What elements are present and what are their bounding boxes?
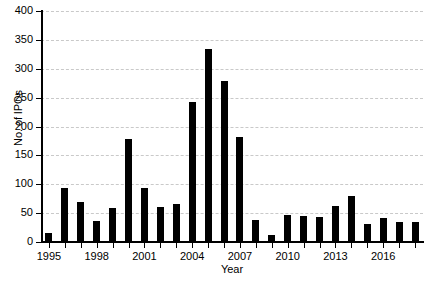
y-axis-tick xyxy=(36,40,41,41)
y-axis-tick xyxy=(36,11,41,12)
bar xyxy=(61,188,68,242)
y-axis-tick xyxy=(36,69,41,70)
y-axis-tick-label: 200 xyxy=(0,121,33,132)
y-axis-tick-label: 300 xyxy=(0,63,33,74)
bar xyxy=(412,222,419,242)
bar xyxy=(364,224,371,242)
bar xyxy=(284,215,291,242)
y-axis-tick xyxy=(36,184,41,185)
bar xyxy=(93,221,100,242)
y-axis-tick-label: 0 xyxy=(0,236,33,247)
bar xyxy=(380,218,387,242)
x-axis-tick xyxy=(113,243,114,248)
x-axis-tick xyxy=(65,243,66,248)
ipo-bar-chart: No. of IPOs Year 05010015020025030035040… xyxy=(0,0,435,281)
x-axis-tick xyxy=(272,243,273,248)
x-axis-tick xyxy=(176,243,177,248)
x-axis-tick xyxy=(288,243,289,248)
y-axis-tick xyxy=(36,127,41,128)
x-axis-tick xyxy=(81,243,82,248)
bar xyxy=(173,204,180,242)
y-axis-tick-label: 350 xyxy=(0,34,33,45)
y-axis-tick xyxy=(36,242,41,243)
x-axis-tick xyxy=(256,243,257,248)
bar xyxy=(109,208,116,242)
bar xyxy=(221,81,228,242)
x-axis-tick xyxy=(367,243,368,248)
x-axis-tick xyxy=(129,243,130,248)
x-axis-tick-label: 1998 xyxy=(77,250,117,262)
bar xyxy=(300,216,307,242)
bar xyxy=(157,207,164,242)
x-axis-tick xyxy=(160,243,161,248)
x-axis-tick xyxy=(144,243,145,248)
bar xyxy=(252,220,259,242)
y-axis-tick-label: 150 xyxy=(0,149,33,160)
x-axis-tick xyxy=(399,243,400,248)
x-axis-tick-label: 1995 xyxy=(29,250,69,262)
bar xyxy=(316,217,323,242)
x-axis-tick xyxy=(208,243,209,248)
x-axis-tick-label: 2007 xyxy=(220,250,260,262)
y-axis-tick-label: 250 xyxy=(0,92,33,103)
bars-container xyxy=(41,11,423,242)
x-axis-tick-label: 2010 xyxy=(268,250,308,262)
y-axis-tick xyxy=(36,213,41,214)
bar xyxy=(189,102,196,242)
y-axis-tick xyxy=(36,98,41,99)
x-axis-tick xyxy=(224,243,225,248)
x-axis-tick-label: 2001 xyxy=(124,250,164,262)
y-axis-tick-label: 400 xyxy=(0,5,33,16)
bar xyxy=(205,49,212,242)
x-axis-title: Year xyxy=(41,263,423,275)
x-axis-tick xyxy=(97,243,98,248)
x-axis-tick xyxy=(383,243,384,248)
y-axis-tick xyxy=(36,155,41,156)
x-axis-tick xyxy=(320,243,321,248)
x-axis-tick-label: 2016 xyxy=(363,250,403,262)
bar xyxy=(77,202,84,242)
bar xyxy=(396,222,403,242)
bar xyxy=(125,139,132,242)
y-axis-tick-label: 50 xyxy=(0,207,33,218)
x-axis-tick xyxy=(415,243,416,248)
x-axis-tick xyxy=(240,243,241,248)
x-axis-tick xyxy=(304,243,305,248)
bar xyxy=(332,206,339,242)
x-axis-tick-label: 2004 xyxy=(172,250,212,262)
bar xyxy=(236,137,243,242)
bar xyxy=(348,196,355,242)
x-axis-tick-label: 2013 xyxy=(315,250,355,262)
bar xyxy=(141,188,148,242)
x-axis-tick xyxy=(335,243,336,248)
y-axis-line xyxy=(41,10,43,243)
x-axis-tick xyxy=(192,243,193,248)
x-axis-tick xyxy=(351,243,352,248)
y-axis-tick-label: 100 xyxy=(0,178,33,189)
x-axis-tick xyxy=(49,243,50,248)
